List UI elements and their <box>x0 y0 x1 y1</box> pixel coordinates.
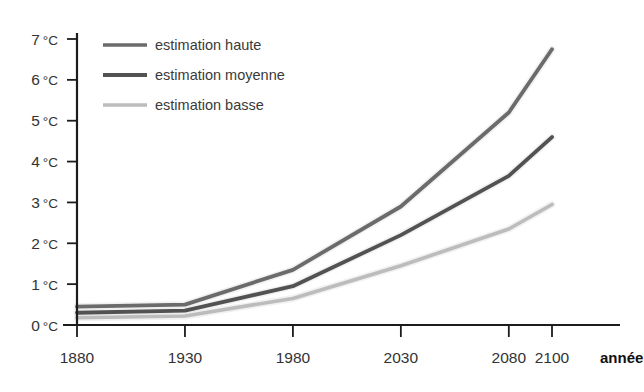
x-tick-label: 1980 <box>276 349 311 366</box>
legend-label: estimation basse <box>155 97 264 113</box>
y-tick-label: 3°C <box>31 194 58 211</box>
x-tick-label: 1930 <box>168 349 203 366</box>
legend-label: estimation moyenne <box>155 67 285 83</box>
x-tick-label: 2100 <box>535 349 570 366</box>
x-tick-label: 1880 <box>60 349 95 366</box>
chart-canvas: 7°C6°C5°C4°C3°C2°C1°C0°C 188019301980203… <box>0 0 644 392</box>
legend-label: estimation haute <box>155 37 261 53</box>
y-tick-label: 2°C <box>31 235 58 252</box>
x-axis-title: année <box>600 349 643 366</box>
y-tick-label: 1°C <box>31 276 58 293</box>
y-tick-label: 7°C <box>31 31 58 48</box>
climate-projection-chart: 7°C6°C5°C4°C3°C2°C1°C0°C 188019301980203… <box>0 0 644 392</box>
y-tick-label: 4°C <box>31 153 58 170</box>
y-tick-label: 5°C <box>31 112 58 129</box>
x-tick-label: 2080 <box>492 349 527 366</box>
y-tick-label: 0°C <box>31 317 58 334</box>
y-tick-label: 6°C <box>31 71 58 88</box>
x-tick-label: 2030 <box>384 349 419 366</box>
